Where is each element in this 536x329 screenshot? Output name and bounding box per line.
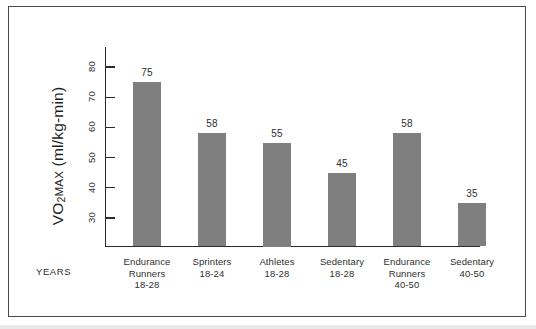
y-tick-50 (106, 157, 115, 158)
category-label-line: 18-24 (175, 268, 249, 280)
bar-value-label: 58 (387, 118, 427, 129)
category-label: EnduranceRunners40-50 (370, 256, 444, 291)
category-label-line: Endurance (370, 256, 444, 268)
bar (198, 133, 226, 246)
category-label-line: Sedentary (305, 256, 379, 268)
y-tick-label-60: 60 (86, 116, 97, 138)
category-label-line: 18-28 (240, 268, 314, 280)
category-label-line: Sprinters (175, 256, 249, 268)
bar (328, 173, 356, 247)
y-tick-label-70: 70 (86, 86, 97, 108)
bar-value-label: 55 (257, 128, 297, 139)
category-label: EnduranceRunners18-28 (110, 256, 184, 291)
bar-chart-plot: VO2MAX (ml/kg-min) 304050607080 75585545… (0, 0, 536, 329)
y-tick-label-40: 40 (86, 176, 97, 198)
bar (458, 203, 486, 247)
category-label-line: Endurance (110, 256, 184, 268)
category-label-line: 18-28 (305, 268, 379, 280)
category-label: Sprinters18-24 (175, 256, 249, 279)
y-axis-title-smallcaps: MAX (53, 171, 65, 197)
bar (133, 82, 161, 246)
bar-value-label: 75 (127, 67, 167, 78)
category-label-line: Athletes (240, 256, 314, 268)
bar-value-label: 58 (192, 118, 232, 129)
y-tick-80 (106, 66, 115, 67)
y-tick-label-30: 30 (86, 207, 97, 229)
bar (393, 133, 421, 246)
x-axis-label-years: YEARS (36, 266, 71, 277)
category-label-line: 40-50 (435, 268, 509, 280)
y-axis-title-main: VO (49, 203, 66, 226)
y-tick-60 (106, 127, 115, 128)
category-label-line: 18-28 (110, 279, 184, 291)
y-axis-title-subscript: 2 (55, 196, 67, 202)
category-label: Sedentary18-28 (305, 256, 379, 279)
bar-value-label: 35 (452, 188, 492, 199)
y-tick-40 (106, 187, 115, 188)
category-label-line: Runners (110, 268, 184, 280)
y-tick-label-80: 80 (86, 56, 97, 78)
category-label: Sedentary40-50 (435, 256, 509, 279)
x-axis-line (105, 246, 480, 247)
y-axis-title: VO2MAX (ml/kg-min) (49, 56, 67, 256)
category-label: Athletes18-28 (240, 256, 314, 279)
bar-value-label: 45 (322, 158, 362, 169)
y-tick-label-50: 50 (86, 146, 97, 168)
figure: VO2MAX (ml/kg-min) 304050607080 75585545… (0, 0, 536, 329)
y-tick-70 (106, 97, 115, 98)
category-label-line: Runners (370, 268, 444, 280)
category-label-line: 40-50 (370, 279, 444, 291)
y-tick-30 (106, 217, 115, 218)
category-label-line: Sedentary (435, 256, 509, 268)
y-axis-title-units: (ml/kg-min) (49, 87, 66, 171)
bar (263, 143, 291, 247)
